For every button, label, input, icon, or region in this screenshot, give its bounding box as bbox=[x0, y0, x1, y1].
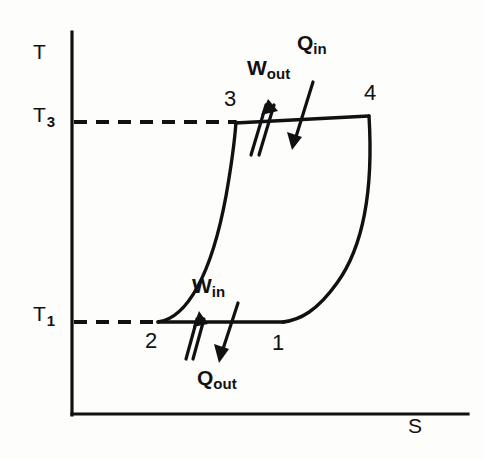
q-out-arrow-icon bbox=[214, 303, 238, 363]
flow-label-w-in-sub: in bbox=[212, 283, 225, 300]
tick-label-t1: T1 bbox=[33, 303, 54, 324]
tick-label-t3: T3 bbox=[33, 104, 54, 125]
flow-label-q-out-sub: out bbox=[213, 375, 236, 392]
tick-label-t3-base: T bbox=[33, 103, 46, 126]
flow-label-w-out-base: W bbox=[247, 56, 267, 79]
state-point-label-2: 2 bbox=[145, 330, 157, 352]
tick-label-t1-sub: 1 bbox=[47, 312, 55, 329]
state-point-label-4: 4 bbox=[364, 82, 376, 104]
w-out-arrow-icon bbox=[251, 99, 278, 155]
flow-label-q-out-base: Q bbox=[197, 366, 213, 389]
flow-label-w-out: Wout bbox=[247, 57, 290, 78]
flow-label-w-in-base: W bbox=[192, 274, 212, 297]
x-axis-label: S bbox=[408, 415, 422, 436]
flow-label-w-out-sub: out bbox=[267, 65, 290, 82]
state-point-label-1: 1 bbox=[272, 332, 284, 354]
flow-label-w-in: Win bbox=[192, 275, 225, 296]
flow-label-q-in-base: Q bbox=[297, 31, 313, 54]
q-in-arrow-icon bbox=[287, 82, 313, 150]
tick-label-t1-base: T bbox=[33, 302, 46, 325]
flow-label-q-in: Qin bbox=[297, 32, 327, 53]
ts-diagram-canvas bbox=[0, 0, 484, 459]
flow-label-q-out: Qout bbox=[197, 367, 237, 388]
w-in-arrow-icon bbox=[186, 311, 208, 359]
ts-diagram-figure: T S T3 T1 1 2 3 4 Wout Qin Win Qout bbox=[0, 0, 484, 459]
flow-label-q-in-sub: in bbox=[313, 40, 326, 57]
y-axis-label: T bbox=[33, 41, 46, 62]
state-point-label-3: 3 bbox=[224, 88, 236, 110]
tick-label-t3-sub: 3 bbox=[47, 113, 55, 130]
cycle-path-4-1 bbox=[283, 116, 370, 322]
